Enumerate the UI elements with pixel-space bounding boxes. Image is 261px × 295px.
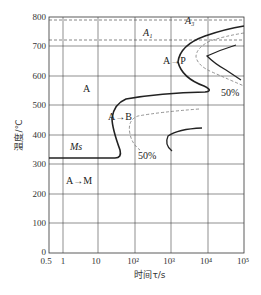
svg-text:10²: 10² [127, 256, 139, 266]
pearlite-50pct-curve [196, 33, 244, 86]
x-tick-labels: 0.5 1 10 10² 10³ 10⁴ 10⁵ [40, 256, 249, 266]
bainite-finish-curve [167, 128, 202, 151]
svg-text:10: 10 [92, 256, 102, 266]
a-to-b-label: A→B [108, 111, 132, 122]
svg-text:1: 1 [61, 256, 66, 266]
y-axis-title: 温度/℃ [13, 119, 24, 150]
a3-label: A₃ [184, 15, 195, 26]
y-tick-labels: 800 700 600 500 400 300 200 100 0 [33, 12, 47, 257]
svg-text:400: 400 [33, 130, 47, 140]
svg-text:700: 700 [33, 41, 47, 51]
ttt-chart: 800 700 600 500 400 300 200 100 0 0.5 1 … [0, 0, 261, 295]
x-axis-title: 时间τ/s [134, 269, 165, 280]
svg-text:100: 100 [33, 218, 47, 228]
austenite-label: A [83, 83, 91, 94]
svg-text:0.5: 0.5 [40, 256, 52, 266]
pearlite-50pct-label: 50% [221, 87, 239, 98]
horizontal-gridlines [49, 46, 244, 223]
a1-label: A₁ [142, 27, 153, 38]
ms-label: Ms [69, 141, 82, 152]
svg-text:500: 500 [33, 100, 47, 110]
a-to-m-label: A→M [66, 175, 92, 186]
svg-text:10³: 10³ [163, 256, 175, 266]
bainite-50pct-label: 50% [138, 150, 156, 161]
svg-text:200: 200 [33, 189, 47, 199]
svg-text:10⁵: 10⁵ [237, 256, 249, 266]
pearlite-finish-curve [207, 45, 241, 80]
a-to-p-label: A→P [163, 55, 186, 66]
svg-text:800: 800 [33, 12, 47, 22]
svg-text:600: 600 [33, 71, 47, 81]
svg-text:300: 300 [33, 159, 47, 169]
svg-text:10⁴: 10⁴ [200, 256, 212, 266]
